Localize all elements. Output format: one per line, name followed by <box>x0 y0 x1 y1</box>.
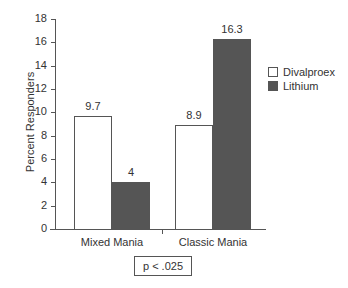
data-label: 16.3 <box>212 23 252 35</box>
p-value-text: p < .025 <box>143 260 183 272</box>
legend-swatch <box>268 81 278 91</box>
data-label: 4 <box>111 166 151 178</box>
y-tick <box>51 42 56 43</box>
legend-label: Divalproex <box>283 66 335 78</box>
bar-lithium-classic-mania <box>213 39 251 230</box>
y-tick-label: 0 <box>27 222 47 234</box>
legend-item: Divalproex <box>268 66 335 78</box>
y-axis-title: Percent Responders <box>24 62 36 182</box>
bar-divalproex-mixed-mania <box>74 116 112 230</box>
y-tick <box>51 89 56 90</box>
bar-lithium-mixed-mania <box>112 182 150 230</box>
y-tick <box>51 112 56 113</box>
y-tick <box>51 182 56 183</box>
y-axis-line <box>55 19 56 230</box>
y-tick <box>51 136 56 137</box>
y-tick <box>51 66 56 67</box>
legend-item: Lithium <box>268 80 318 92</box>
p-value-box: p < .025 <box>134 256 192 276</box>
y-tick <box>51 159 56 160</box>
legend-label: Lithium <box>283 80 318 92</box>
y-tick-label: 2 <box>27 199 47 211</box>
x-category-divider-tick <box>162 229 163 234</box>
y-tick-label: 10 <box>27 105 47 117</box>
y-tick <box>51 19 56 20</box>
legend-swatch <box>268 67 278 77</box>
y-tick-label: 18 <box>27 12 47 24</box>
y-tick <box>51 206 56 207</box>
y-tick <box>51 229 56 230</box>
y-tick-label: 14 <box>27 59 47 71</box>
x-category-label: Mixed Mania <box>57 236 167 248</box>
x-category-label: Classic Mania <box>158 236 268 248</box>
data-label: 9.7 <box>73 100 113 112</box>
y-tick-label: 8 <box>27 129 47 141</box>
data-label: 8.9 <box>174 109 214 121</box>
y-tick-label: 6 <box>27 152 47 164</box>
bar-divalproex-classic-mania <box>175 125 213 230</box>
y-tick-label: 12 <box>27 82 47 94</box>
y-tick-label: 16 <box>27 35 47 47</box>
y-tick-label: 4 <box>27 175 47 187</box>
